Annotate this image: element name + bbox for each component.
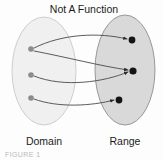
domain-label: Domain: [26, 135, 62, 147]
figure-caption: FIGURE 1: [5, 151, 40, 158]
diagram-title: Not A Function: [50, 3, 118, 15]
domain-set-ellipse: [12, 17, 76, 125]
domain-point: [28, 95, 34, 101]
figure-container: Not A Function Domain Range FIGURE 1: [0, 0, 163, 160]
mapping-diagram: Not A Function Domain Range FIGURE 1: [0, 0, 163, 160]
range-point: [129, 37, 136, 44]
range-point: [116, 97, 123, 104]
domain-point: [28, 46, 34, 52]
domain-point: [28, 72, 34, 78]
range-point: [129, 67, 136, 74]
range-label: Range: [110, 135, 141, 147]
